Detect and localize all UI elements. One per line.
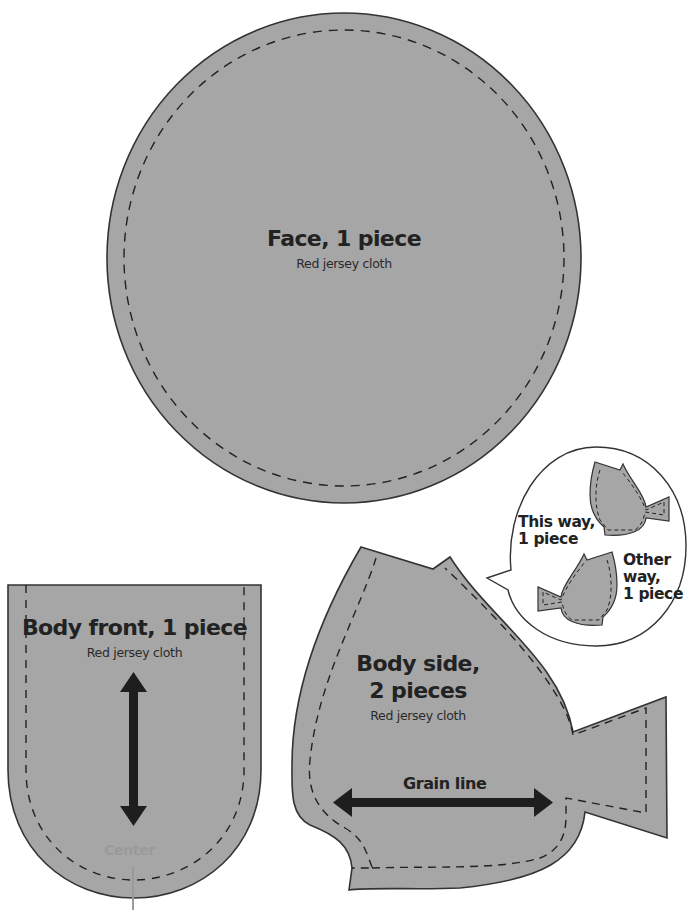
body-side-title-line2: 2 pieces — [338, 678, 498, 704]
pattern-sheet — [0, 0, 691, 918]
other-way-label-line1: Other — [623, 552, 671, 569]
grain-line-label: Grain line — [403, 774, 486, 793]
face-material: Red jersey cloth — [244, 256, 444, 272]
this-way-label-line2: 1 piece — [518, 531, 578, 548]
other-way-label-line2: way, — [623, 569, 661, 586]
face-title: Face, 1 piece — [244, 226, 444, 252]
orientation-callout-bubble — [487, 447, 686, 646]
this-way-label-line1: This way, — [518, 514, 595, 531]
center-label: Center — [104, 842, 155, 858]
other-way-label-line3: 1 piece — [623, 586, 683, 603]
body-side-material: Red jersey cloth — [338, 708, 498, 724]
body-side-title-line1: Body side, — [338, 651, 498, 677]
body-front-title: Body front, 1 piece — [0, 615, 269, 641]
body-front-material: Red jersey cloth — [0, 645, 269, 661]
